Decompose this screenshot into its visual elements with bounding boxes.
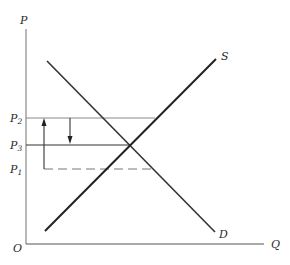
price-axis-label: P bbox=[19, 14, 28, 27]
quantity-axis-label: Q bbox=[271, 238, 280, 251]
p3-label: P3 bbox=[9, 139, 22, 153]
origin-label: O bbox=[13, 242, 22, 255]
up-arrow-icon bbox=[42, 118, 47, 169]
p2-label: P2 bbox=[9, 112, 22, 126]
supply-label: S bbox=[221, 50, 229, 63]
p1-label: P1 bbox=[9, 163, 22, 177]
supply-demand-diagram: P Q O S D P2 P3 P1 bbox=[0, 0, 290, 265]
demand-label: D bbox=[218, 228, 228, 241]
down-arrow-icon bbox=[68, 118, 73, 144]
